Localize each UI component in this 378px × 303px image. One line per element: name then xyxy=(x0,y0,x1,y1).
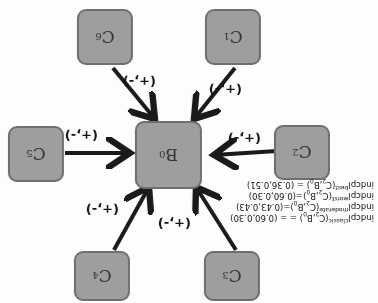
node-c6: C6 xyxy=(77,9,133,65)
edge-label-c6: (+,-) xyxy=(123,74,156,89)
edge-label-c2: (+,-) xyxy=(228,131,261,146)
node-c2: C2 xyxy=(274,125,330,180)
node-c3: C3 xyxy=(204,251,260,301)
node-c4: C4 xyxy=(74,251,130,301)
edge-label-c3: (+,-) xyxy=(158,216,191,231)
arrow-c2-b0 xyxy=(214,151,277,155)
node-b0: B0 xyxy=(135,121,202,189)
edge-label-c5: (+,-) xyxy=(65,128,98,143)
diagram-canvas: B0 C1 C6 C2 C5 C3 C4 (+,-) (+,-) (+,-) (… xyxy=(0,0,378,303)
edge-label-c4: (+,-) xyxy=(86,202,119,217)
rotated-diagram: B0 C1 C6 C2 C5 C3 C4 (+,-) (+,-) (+,-) (… xyxy=(0,0,378,303)
arrow-c4-b0 xyxy=(114,187,149,250)
annotation-line-best: indcplbest(C2,B0) = (0.36,0.51) xyxy=(247,176,374,194)
node-c5: C5 xyxy=(8,126,64,182)
node-b0-label: B xyxy=(165,145,178,165)
edge-label-c1: (+,-) xyxy=(209,82,242,97)
node-c1: C1 xyxy=(205,9,261,65)
